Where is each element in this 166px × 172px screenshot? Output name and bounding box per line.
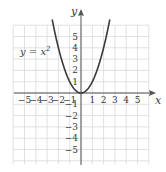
x-tick-label: 2 xyxy=(101,95,107,105)
y-tick-label: 1 xyxy=(72,77,78,87)
x-tick-label: 5 xyxy=(135,95,141,105)
y-tick-label: −2 xyxy=(65,111,78,121)
equation-label: y = x2 xyxy=(19,45,51,57)
x-tick-label: 1 xyxy=(89,95,95,105)
x-tick-label: 4 xyxy=(123,95,129,105)
y-tick-label: −1 xyxy=(65,99,78,109)
y-axis-label: y xyxy=(70,5,78,18)
x-axis-label: x xyxy=(155,94,162,107)
y-tick-label: 4 xyxy=(72,43,78,53)
y-tick-label: −5 xyxy=(65,145,79,155)
y-tick-label: 3 xyxy=(72,54,78,64)
y-tick-label: 2 xyxy=(72,65,78,75)
x-tick-label: 3 xyxy=(112,95,118,105)
y-tick-label: −4 xyxy=(65,133,79,143)
y-axis-arrow-icon xyxy=(78,9,84,16)
coordinate-plane: x y −5−4−3−2−112345 54321−1−2−3−4−5 y = … xyxy=(0,0,166,172)
x-tick-labels: −5−4−3−2−112345 xyxy=(18,95,141,105)
y-tick-label: −3 xyxy=(65,122,79,132)
y-tick-label: 5 xyxy=(72,32,78,42)
